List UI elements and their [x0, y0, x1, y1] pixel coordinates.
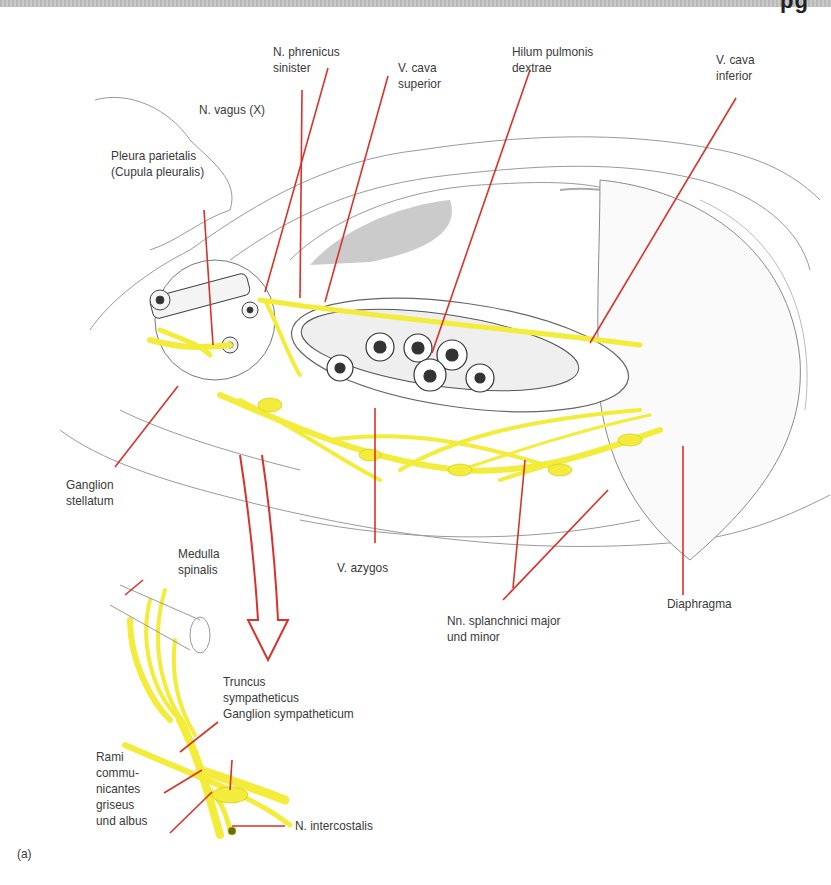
label-truncus-sympatheticus: Truncus sympatheticus Ganglion sympathet… [223, 674, 354, 722]
label-medulla-spinalis: Medulla spinalis [178, 546, 220, 578]
label-n-vagus: N. vagus (X) [199, 102, 265, 118]
label-v-cava-superior: V. cava superior [398, 60, 441, 92]
label-n-phrenicus-sinister: N. phrenicus sinister [273, 44, 340, 76]
label-v-azygos: V. azygos [337, 560, 388, 576]
label-nn-splanchnici: Nn. splanchnici major und minor [447, 613, 561, 645]
label-pleura-parietalis: Pleura parietalis (Cupula pleuralis) [111, 148, 204, 180]
lung-shadow [310, 200, 452, 265]
label-ganglion-stellatum: Ganglion stellatum [66, 477, 114, 509]
cupula-circle [155, 260, 275, 380]
label-hilum-pulmonis-dextrae: Hilum pulmonis dextrae [512, 44, 593, 76]
figure-label: (a) [17, 846, 32, 862]
label-rami-communicantes: Rami commu- nicantes griseus und albus [96, 749, 148, 829]
label-diaphragma: Diaphragma [667, 596, 732, 612]
diaphragm-dome [598, 180, 801, 560]
magnify-arrow-icon [240, 455, 288, 660]
label-v-cava-inferior: V. cava inferior [716, 52, 755, 84]
label-n-intercostalis: N. intercostalis [295, 818, 373, 834]
